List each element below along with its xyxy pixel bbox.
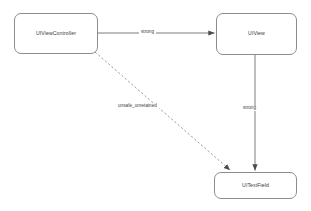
edge-vc-to-textfield — [95, 52, 230, 170]
diagram-canvas: UIViewController UIView UITextField stro… — [0, 0, 311, 211]
node-uiviewcontroller-label: UIViewController — [36, 31, 76, 36]
node-uiview[interactable]: UIView — [216, 13, 297, 55]
node-uitextfield-label: UITextField — [242, 183, 269, 188]
edge-label-view-to-textfield: strong — [241, 106, 258, 111]
node-uiview-label: UIView — [248, 31, 265, 36]
edge-label-vc-to-view: strong — [139, 30, 156, 35]
edge-label-vc-to-textfield: unsafe_unretained — [116, 104, 159, 109]
node-uiviewcontroller[interactable]: UIViewController — [14, 13, 98, 54]
node-uitextfield[interactable]: UITextField — [214, 172, 297, 199]
